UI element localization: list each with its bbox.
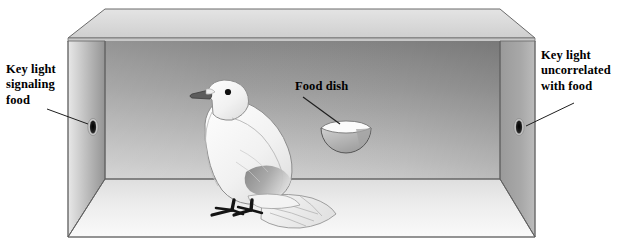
chamber-scene bbox=[0, 0, 625, 248]
right-key-light-label: Key light uncorrelated with food bbox=[541, 48, 625, 94]
right-key-light[interactable] bbox=[514, 118, 524, 135]
left-key-light[interactable] bbox=[88, 118, 98, 135]
pigeon-head bbox=[208, 80, 249, 120]
right-key-light-aperture-icon[interactable] bbox=[516, 120, 522, 133]
chamber-top-panel bbox=[68, 9, 535, 38]
chamber-back-wall-shading bbox=[105, 41, 500, 179]
pigeon-eye bbox=[225, 89, 231, 95]
left-key-light-label: Key light signaling food bbox=[6, 62, 76, 108]
food-dish-label: Food dish bbox=[295, 79, 391, 94]
operant-chamber-figure: Key light signaling food Key light uncor… bbox=[0, 0, 625, 248]
left-key-light-aperture-icon[interactable] bbox=[90, 120, 96, 133]
